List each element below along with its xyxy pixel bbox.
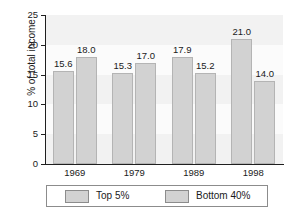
legend-entry[interactable]: Bottom 40% (165, 189, 250, 203)
bar[interactable] (112, 73, 133, 164)
y-axis-tick-label: 10 (8, 99, 38, 109)
x-axis-tick-label: 1998 (219, 168, 287, 178)
bar-value-label: 18.0 (70, 45, 103, 55)
y-axis-tick-label: 15 (8, 70, 38, 80)
y-axis-line (45, 15, 46, 165)
x-axis-line (45, 164, 284, 165)
bar-value-label: 15.2 (189, 61, 222, 71)
bar[interactable] (53, 71, 74, 164)
bar[interactable] (195, 73, 216, 164)
y-axis-tick-label: 0 (8, 159, 38, 169)
bar[interactable] (231, 39, 252, 164)
y-axis-tick-label: 25 (8, 10, 38, 20)
bar-value-label: 17.9 (166, 45, 199, 55)
chart-legend: Top 5%Bottom 40% (46, 185, 268, 207)
bar[interactable] (254, 81, 275, 164)
legend-label: Bottom 40% (196, 191, 250, 201)
legend-swatch-icon (65, 190, 89, 203)
bar-value-label: 14.0 (248, 69, 281, 79)
y-axis-tick-label: 20 (8, 40, 38, 50)
bar[interactable] (76, 57, 97, 164)
legend-entry[interactable]: Top 5% (65, 189, 129, 203)
legend-swatch-icon (165, 190, 189, 203)
bar[interactable] (135, 63, 156, 164)
bar-value-label: 17.0 (129, 51, 162, 61)
y-axis-tick-label: 5 (8, 129, 38, 139)
bar-value-label: 21.0 (225, 27, 258, 37)
bar[interactable] (172, 57, 193, 164)
bar-chart-figure: % of total income 0510152025 15.618.015.… (0, 0, 286, 212)
legend-label: Top 5% (96, 191, 129, 201)
